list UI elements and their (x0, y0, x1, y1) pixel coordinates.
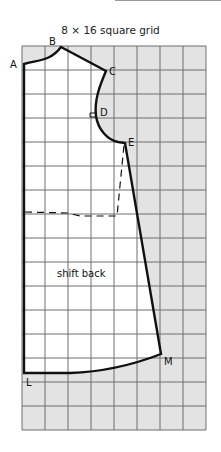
pattern-diagram: A B C D E L M shift back (0, 0, 221, 452)
point-label-m: M (164, 356, 173, 367)
point-label-c: C (109, 66, 116, 77)
point-label-l: L (26, 377, 32, 388)
point-label-e: E (128, 137, 134, 148)
point-label-b: B (49, 36, 56, 47)
pattern-piece-label: shift back (57, 268, 106, 279)
point-label-a: A (10, 59, 17, 70)
point-label-d: D (100, 107, 108, 118)
